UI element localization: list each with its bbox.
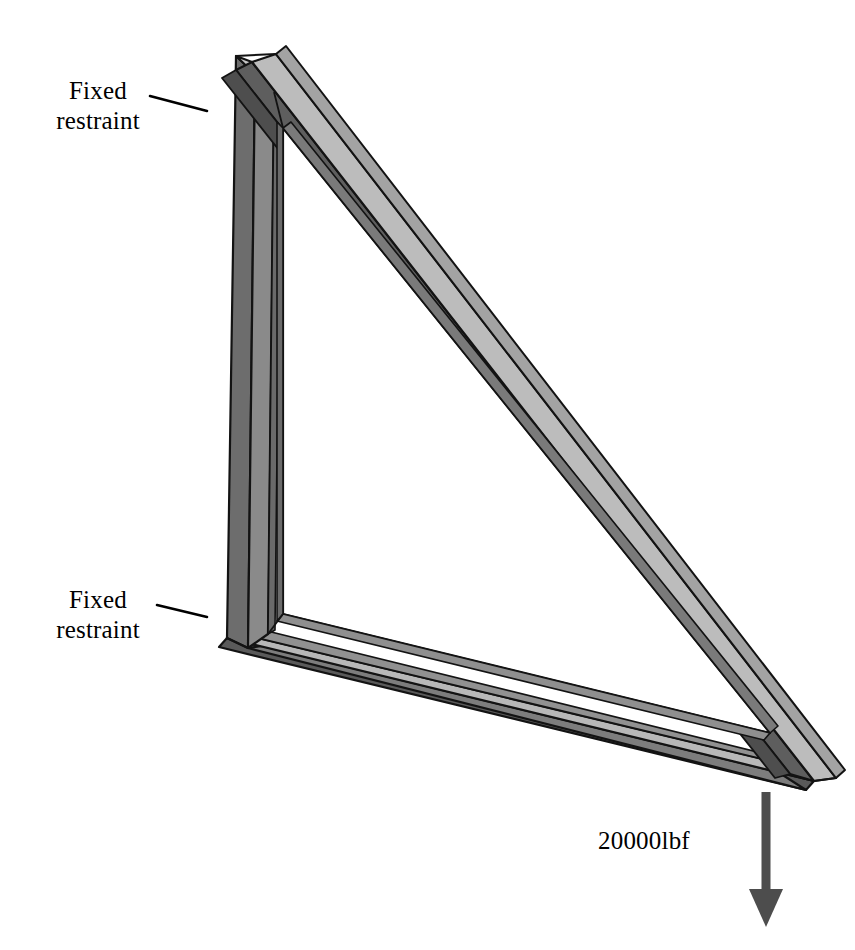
- leader-lines-group: [150, 96, 207, 617]
- load-arrow: [749, 792, 783, 927]
- inner-hole-vertical-wall: [277, 122, 283, 621]
- leader-line-bottom: [157, 605, 207, 617]
- load-arrow-shaft: [762, 792, 771, 891]
- vertical-left-member: [227, 56, 281, 648]
- figure-canvas: Fixed restraint Fixed restraint 20000lbf: [0, 0, 855, 950]
- truss-frame-illustration: [0, 0, 855, 950]
- fixed-restraint-bottom-label: Fixed restraint: [38, 585, 158, 645]
- inner-opening: [277, 122, 778, 740]
- leader-line-top: [150, 96, 207, 111]
- applied-load-label: 20000lbf: [598, 826, 748, 856]
- load-arrow-head: [749, 889, 783, 927]
- fixed-restraint-top-label: Fixed restraint: [38, 76, 158, 136]
